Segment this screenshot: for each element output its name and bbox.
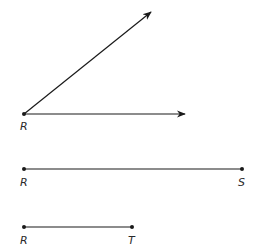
label-r: R: [20, 176, 28, 189]
label-r: R: [20, 234, 28, 247]
point-r: [22, 225, 26, 229]
vertex-point-r: [22, 112, 26, 116]
geometry-figure: R R S R T: [0, 0, 255, 251]
segment-rs: R S: [20, 167, 245, 189]
point-t: [130, 225, 134, 229]
angle-figure: R: [20, 12, 185, 133]
upper-ray: [24, 12, 151, 114]
segment-rt: R T: [20, 225, 136, 247]
point-r: [22, 167, 26, 171]
point-s: [240, 167, 244, 171]
vertex-label-r: R: [20, 120, 28, 133]
label-t: T: [128, 234, 136, 247]
label-s: S: [238, 176, 245, 189]
